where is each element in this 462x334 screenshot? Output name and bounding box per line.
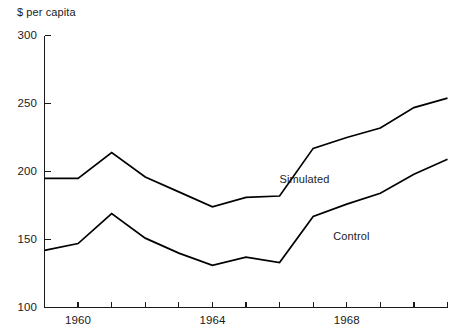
y-tick-label-150: 150 <box>11 233 37 245</box>
series-label-control: Control <box>333 230 369 242</box>
series-line-simulated <box>45 98 448 207</box>
y-tick-label-300: 300 <box>11 29 37 41</box>
data-series-lines <box>45 98 448 265</box>
y-tick-label-200: 200 <box>11 165 37 177</box>
x-tick-label-1960: 1960 <box>58 314 98 326</box>
x-tick-label-1964: 1964 <box>192 314 232 326</box>
axis-lines <box>45 36 448 308</box>
axis-ticks <box>45 104 448 308</box>
y-tick-label-250: 250 <box>11 97 37 109</box>
series-line-control <box>45 159 448 265</box>
x-tick-label-1968: 1968 <box>327 314 367 326</box>
chart-figure: $ per capita 100150200250300 19601964196… <box>0 0 462 334</box>
series-label-simulated: Simulated <box>280 173 330 185</box>
chart-plot-area <box>0 0 462 334</box>
y-tick-label-100: 100 <box>11 301 37 313</box>
